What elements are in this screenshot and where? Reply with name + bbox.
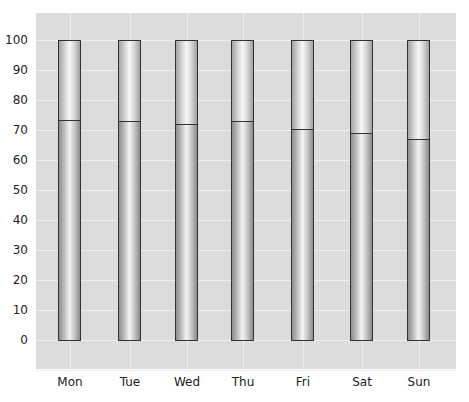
y-tick-label: 70 [0, 123, 28, 137]
y-tick-label: 80 [0, 93, 28, 107]
y-tick-label: 0 [0, 333, 28, 347]
x-tick-label: Wed [157, 375, 217, 389]
x-tick-label: Mon [40, 375, 100, 389]
y-tick-label: 40 [0, 213, 28, 227]
bar-segment-upper [408, 41, 429, 140]
y-tick-label: 20 [0, 273, 28, 287]
bar-segment-upper [232, 41, 253, 122]
bar-segment-upper [292, 41, 313, 130]
bar-segment-upper [351, 41, 372, 134]
bar-wed [175, 40, 198, 341]
x-tick-label: Fri [273, 375, 333, 389]
bar-fri [291, 40, 314, 341]
bar-segment-upper [176, 41, 197, 125]
y-tick-label: 100 [0, 33, 28, 47]
y-tick-label: 50 [0, 183, 28, 197]
bar-segment-upper [119, 41, 140, 122]
x-tick-label: Thu [213, 375, 273, 389]
segment-divider [408, 139, 429, 140]
segment-divider [292, 129, 313, 130]
bar-thu [231, 40, 254, 341]
x-tick-label: Sat [332, 375, 392, 389]
y-tick-label: 30 [0, 243, 28, 257]
bar-mon [58, 40, 81, 341]
segment-divider [351, 133, 372, 134]
y-tick-label: 10 [0, 303, 28, 317]
segment-divider [59, 120, 80, 121]
segment-divider [119, 121, 140, 122]
y-tick-label: 90 [0, 63, 28, 77]
segment-divider [176, 124, 197, 125]
bar-segment-upper [59, 41, 80, 121]
x-tick-label: Tue [100, 375, 160, 389]
x-tick-label: Sun [389, 375, 449, 389]
bar-tue [118, 40, 141, 341]
bar-sat [350, 40, 373, 341]
gridline-h [36, 370, 456, 371]
bar-sun [407, 40, 430, 341]
y-tick-label: 60 [0, 153, 28, 167]
segment-divider [232, 121, 253, 122]
